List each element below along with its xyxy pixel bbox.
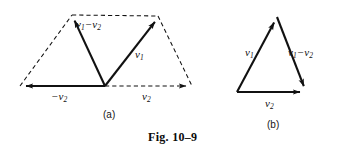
panel-b-v1-arrow bbox=[237, 23, 274, 92]
panel-a-group bbox=[20, 15, 192, 86]
panel-a-label-neg-v2: −v2 bbox=[51, 91, 67, 104]
panel-a-label-v2: v2 bbox=[142, 91, 151, 104]
figure-caption: Fig. 10–9 bbox=[148, 131, 197, 143]
panel-a-right-side-dashed bbox=[158, 16, 192, 86]
figure-10-9: v1−v2 v1 −v2 v2 (a) v1 v1−v2 v2 (b) Fig.… bbox=[0, 0, 351, 153]
panel-a-label-v1-minus-v2: v1−v2 bbox=[76, 19, 101, 32]
panel-a-top-dashed bbox=[72, 15, 158, 16]
panel-a-label-v1: v1 bbox=[135, 49, 144, 62]
panel-b-label-v1-minus-v2: v1−v2 bbox=[288, 47, 313, 60]
panel-b-label-v1: v1 bbox=[245, 47, 254, 60]
panel-a-left-side-dashed bbox=[20, 15, 72, 86]
panel-b-label-v2: v2 bbox=[265, 98, 274, 111]
panel-a-sub-label: (a) bbox=[103, 110, 115, 120]
panel-b-sub-label: (b) bbox=[267, 120, 279, 130]
panel-a-v1-arrow bbox=[105, 22, 155, 86]
